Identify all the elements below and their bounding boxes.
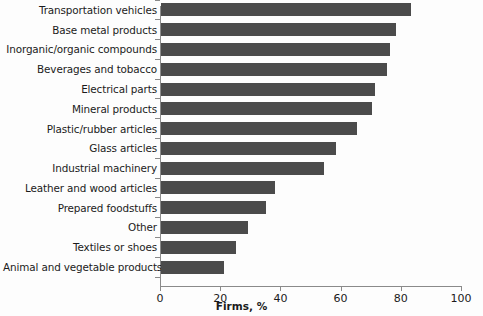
y-axis-tick	[155, 257, 160, 258]
bar	[161, 142, 336, 155]
bar-row: Textiles or shoes	[0, 237, 483, 257]
y-axis-tick	[155, 118, 160, 119]
bar	[161, 3, 411, 16]
x-axis-tick	[341, 286, 342, 291]
y-axis-tick	[155, 178, 160, 179]
y-axis-tick	[155, 39, 160, 40]
bar	[161, 43, 390, 56]
bar-track	[161, 257, 462, 277]
y-axis-tick	[155, 98, 160, 99]
bar-rows: Transportation vehiclesBase metal produc…	[0, 0, 483, 277]
bar	[161, 102, 372, 115]
y-axis-tick	[155, 158, 160, 159]
bar-row: Prepared foodstuffs	[0, 198, 483, 218]
y-axis-tick	[155, 59, 160, 60]
bar	[161, 162, 324, 175]
x-axis-tick	[461, 286, 462, 291]
category-label: Transportation vehicles	[3, 4, 157, 16]
bar-row: Other	[0, 218, 483, 238]
category-label: Inorganic/organic compounds	[3, 43, 157, 55]
bar	[161, 241, 236, 254]
y-axis-tick	[155, 277, 160, 278]
bar-track	[161, 178, 462, 198]
category-label: Glass articles	[3, 142, 157, 154]
category-label: Mineral products	[3, 103, 157, 115]
bar-row: Animal and vegetable products	[0, 257, 483, 277]
bar-row: Leather and wood articles	[0, 178, 483, 198]
bar	[161, 23, 396, 36]
y-axis-tick	[155, 19, 160, 20]
x-axis-title: Firms, %	[0, 300, 483, 312]
x-axis-tick	[160, 286, 161, 291]
bar-track	[161, 138, 462, 158]
y-axis-tick	[155, 217, 160, 218]
y-axis-tick	[155, 0, 160, 1]
x-axis-tick	[401, 286, 402, 291]
bar-track	[161, 158, 462, 178]
bar	[161, 201, 266, 214]
bar-track	[161, 237, 462, 257]
bar-track	[161, 99, 462, 119]
bar-track	[161, 40, 462, 60]
bar-row: Electrical parts	[0, 79, 483, 99]
bar-row: Plastic/rubber articles	[0, 119, 483, 139]
bar-row: Inorganic/organic compounds	[0, 40, 483, 60]
y-axis-tick	[155, 237, 160, 238]
category-label: Beverages and tobacco	[3, 63, 157, 75]
category-label: Prepared foodstuffs	[3, 202, 157, 214]
bar-row: Industrial machinery	[0, 158, 483, 178]
bar-track	[161, 79, 462, 99]
bar-track	[161, 0, 462, 20]
category-label: Industrial machinery	[3, 162, 157, 174]
bar-row: Glass articles	[0, 138, 483, 158]
category-label: Animal and vegetable products	[3, 261, 157, 273]
y-axis-tick	[155, 138, 160, 139]
bar	[161, 261, 224, 274]
bar	[161, 221, 248, 234]
bar	[161, 63, 387, 76]
bar-row: Mineral products	[0, 99, 483, 119]
bar-track	[161, 218, 462, 238]
y-axis-tick	[155, 79, 160, 80]
category-label: Base metal products	[3, 24, 157, 36]
category-label: Textiles or shoes	[3, 241, 157, 253]
bar-chart: Transportation vehiclesBase metal produc…	[0, 0, 483, 316]
bar	[161, 122, 357, 135]
bar	[161, 83, 375, 96]
x-axis-ticks: 020406080100	[0, 286, 483, 292]
x-axis-tick	[220, 286, 221, 291]
bar-track	[161, 59, 462, 79]
x-axis-tick	[280, 286, 281, 291]
bar-track	[161, 198, 462, 218]
bar	[161, 181, 275, 194]
bar-row: Transportation vehicles	[0, 0, 483, 20]
bar-row: Beverages and tobacco	[0, 59, 483, 79]
bar-track	[161, 119, 462, 139]
bar-row: Base metal products	[0, 20, 483, 40]
y-axis-tick	[155, 197, 160, 198]
category-label: Plastic/rubber articles	[3, 123, 157, 135]
category-label: Electrical parts	[3, 83, 157, 95]
category-label: Other	[3, 221, 157, 233]
category-label: Leather and wood articles	[3, 182, 157, 194]
bar-track	[161, 20, 462, 40]
